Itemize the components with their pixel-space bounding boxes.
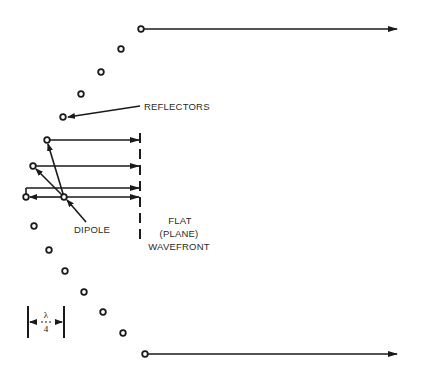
wavefront-label-line1: FLAT [168, 215, 191, 226]
wavefront-label-line2: (PLANE) [160, 228, 199, 239]
wavefront-label-line3: WAVEFRONT [148, 241, 209, 252]
dipole-pointer-arrow [67, 200, 86, 222]
dipole-label: DIPOLE [74, 224, 110, 235]
dipole-element [61, 194, 67, 200]
lambda-divisor: 4 [44, 324, 49, 334]
reflector-elements [23, 26, 148, 357]
lambda-quarter-marker: λ 4 [28, 306, 64, 338]
reflectors-label: REFLECTORS [144, 101, 210, 112]
reflector-diagram: REFLECTORS DIPOLE FLAT (PLANE) WAVEFRONT… [0, 0, 432, 384]
reflectors-pointer-arrow [68, 106, 140, 117]
lambda-symbol: λ [44, 310, 49, 320]
